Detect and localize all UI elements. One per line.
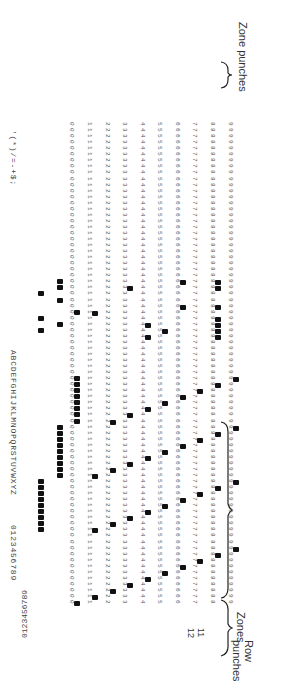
row-digit: 4	[139, 152, 146, 156]
row-digit: 5	[156, 273, 163, 277]
row-digit: 8	[209, 219, 216, 223]
punch-hole	[127, 516, 133, 521]
row-digit: 2	[104, 479, 111, 483]
row-digit: 9	[227, 231, 234, 235]
row-digit: 6	[174, 340, 181, 344]
punch-hole	[110, 468, 116, 473]
row-digit: 3	[121, 261, 128, 265]
row-digit: 1	[86, 394, 93, 398]
row-digit: 1	[86, 158, 93, 162]
row-digit: 9	[227, 491, 234, 495]
punch-hole	[57, 455, 63, 460]
row-digit: 2	[104, 497, 111, 501]
row-digit: 4	[139, 243, 146, 247]
row-digit: 5	[156, 346, 163, 350]
row-digit: 0	[68, 285, 75, 289]
row-digit: 1	[86, 431, 93, 435]
row-digit: 3	[121, 552, 128, 556]
row-digit: 7	[191, 140, 198, 144]
row-digit: 6	[174, 491, 181, 495]
row-digit: 8	[209, 267, 216, 271]
row-digit: 0	[68, 122, 75, 126]
row-digit: 7	[191, 316, 198, 320]
row-digit: 4	[139, 364, 146, 368]
row-digit: 7	[191, 509, 198, 513]
row-digit: 0	[68, 213, 75, 217]
row-digit: 3	[121, 298, 128, 302]
row-digit: 8	[209, 140, 216, 144]
row-digit: 8	[209, 207, 216, 211]
row-digit: 6	[174, 322, 181, 326]
row-digit: 8	[209, 213, 216, 217]
row-digit: 8	[209, 183, 216, 187]
row-digit: 6	[174, 328, 181, 332]
row-digit: 3	[121, 352, 128, 356]
row-digit: 2	[104, 509, 111, 513]
row-digit: 8	[209, 261, 216, 265]
row-digit: 6	[174, 358, 181, 362]
punch-hole	[38, 485, 44, 490]
punch-hole	[180, 280, 186, 285]
row-digit: 3	[121, 183, 128, 187]
row-digit: 3	[121, 425, 128, 429]
row-digit: 0	[68, 334, 75, 338]
row-digit: 9	[227, 455, 234, 459]
row-digit: 5	[156, 183, 163, 187]
punch-hole	[74, 419, 80, 424]
row-digit: 3	[121, 255, 128, 259]
row-digit: 2	[104, 600, 111, 604]
row-digit: 4	[139, 582, 146, 586]
row-digit: 3	[121, 570, 128, 574]
row-digit: 2	[104, 249, 111, 253]
row-digit: 3	[121, 291, 128, 295]
row-digit: 5	[156, 540, 163, 544]
punch-hole	[57, 449, 63, 454]
row-digit: 1	[86, 449, 93, 453]
row-digit: 1	[86, 503, 93, 507]
row-digit: 7	[191, 225, 198, 229]
row-digit: 2	[104, 255, 111, 259]
row-digit: 6	[174, 213, 181, 217]
row-digit: 2	[104, 425, 111, 429]
row-digit: 1	[86, 152, 93, 156]
row-digit: 7	[191, 273, 198, 277]
row-digit: 6	[174, 600, 181, 604]
row-digit: 0	[68, 328, 75, 332]
row-digit: 5	[156, 473, 163, 477]
row-digit: 0	[68, 352, 75, 356]
punch-hole	[127, 583, 133, 588]
row-digit: 6	[174, 527, 181, 531]
row-digit: 9	[227, 503, 234, 507]
row-digit: 4	[139, 352, 146, 356]
row-digit: 0	[68, 273, 75, 277]
punch-hole	[57, 473, 63, 478]
row-digit: 4	[139, 219, 146, 223]
row-digit: 8	[209, 152, 216, 156]
row-digit: 4	[139, 594, 146, 598]
row-digit: 9	[227, 527, 234, 531]
row-digit: 2	[104, 134, 111, 138]
row-digit: 1	[86, 304, 93, 308]
row-digit: 0	[68, 431, 75, 435]
row-digit: 0	[68, 140, 75, 144]
row-digit: 6	[174, 261, 181, 265]
punch-hole	[162, 571, 168, 576]
row-digit: 0	[68, 267, 75, 271]
punch-hole	[38, 503, 44, 508]
row-digit: 1	[86, 491, 93, 495]
row-digit: 2	[104, 491, 111, 495]
punch-hole	[57, 431, 63, 436]
row-digit: 5	[156, 527, 163, 531]
row-digit: 4	[139, 437, 146, 441]
row-digit: 1	[86, 533, 93, 537]
row-digit: 4	[139, 273, 146, 277]
row-digit: 5	[156, 225, 163, 229]
row-digit: 7	[191, 412, 198, 416]
row-digit: 4	[139, 225, 146, 229]
row-digit: 2	[104, 358, 111, 362]
row-digit: 2	[104, 370, 111, 374]
row-digit: 0	[68, 243, 75, 247]
row-digit: 0	[68, 346, 75, 350]
row-digit: 9	[227, 195, 234, 199]
row-digit: 9	[227, 225, 234, 229]
